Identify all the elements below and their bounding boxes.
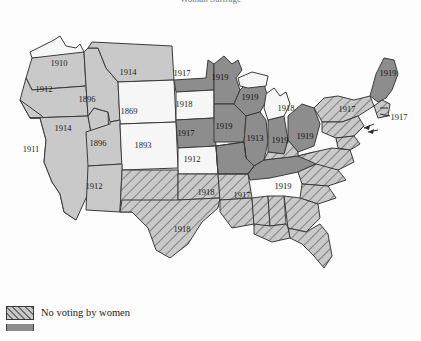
label-idaho: 1896 [79,94,96,104]
label-north-dakota: 1917 [174,68,191,78]
label-south-dakota: 1918 [176,99,193,109]
legend-item-no-voting: No voting by women [6,305,306,320]
page-title: Woman Suffrage [0,0,421,9]
label-maine: 1919 [380,68,397,78]
label-illinois: 1913 [247,133,264,143]
label-kansas: 1912 [184,154,201,164]
label-wisconsin: 1919 [242,92,259,102]
label-nevada: 1914 [55,123,73,133]
legend-swatch-hatched [6,306,34,320]
label-washington: 1910 [51,58,68,68]
label-oklahoma: 1918 [198,187,215,197]
label-montana: 1914 [120,67,138,77]
label-ohio: 1919 [297,131,314,141]
label-iowa: 1919 [216,121,233,131]
label-nebraska: 1917 [178,128,195,138]
label-michigan: 1918 [278,103,295,113]
legend-swatch-dark [6,324,34,331]
label-texas: 1918 [174,224,191,234]
label-colorado: 1893 [135,140,152,150]
state-mississippi [252,196,270,226]
label-oregon: 1912 [36,84,53,94]
label-utah: 1896 [90,138,107,148]
state-alabama [268,196,286,226]
label-indiana: 1919 [272,135,289,145]
label-new-york: 1917 [339,104,356,114]
us-suffrage-map: 1910 1912 1911 1914 1896 1914 1869 1896 … [2,12,419,297]
label-arizona: 1912 [86,181,103,191]
label-california: 1911 [23,144,40,154]
state-wyoming [118,80,176,124]
label-arkansas: 1917 [234,190,251,200]
map-container: 1910 1912 1911 1914 1896 1914 1869 1896 … [2,12,419,297]
label-tennessee: 1919 [275,181,292,191]
suffrage-map-page: Woman Suffrage [0,0,421,341]
legend-label-no-voting: No voting by women [41,307,130,318]
label-minnesota: 1919 [212,72,229,82]
legend-item-second [6,324,306,331]
label-wyoming: 1869 [121,106,138,116]
label-new-england: 1917 [391,112,408,122]
map-legend: No voting by women [6,305,306,331]
